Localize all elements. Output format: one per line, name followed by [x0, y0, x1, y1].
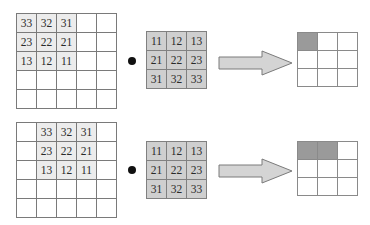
input-cell	[57, 180, 77, 199]
input-cell: 21	[77, 142, 97, 161]
input-cell: 33	[17, 14, 37, 33]
input-cell	[77, 52, 97, 71]
input-cell: 12	[57, 161, 77, 180]
input-cell	[77, 180, 97, 199]
output-cell	[338, 142, 358, 160]
input-cell	[37, 90, 57, 109]
output-cell	[338, 51, 358, 69]
input-cell: 22	[57, 142, 77, 161]
kernel-cell: 31	[147, 70, 167, 89]
output-cell-filled	[298, 33, 318, 51]
input-matrix-1: 33 32 31 23 22 21 13 12 11	[16, 13, 117, 109]
kernel-matrix-1: 11 12 13 21 22 23 31 32 33	[146, 31, 207, 89]
right-arrow-icon	[218, 158, 294, 184]
kernel-cell: 13	[187, 142, 207, 161]
input-cell	[77, 71, 97, 90]
kernel-cell: 13	[187, 32, 207, 51]
input-cell	[77, 33, 97, 52]
input-cell: 33	[37, 123, 57, 142]
kernel-cell: 31	[147, 180, 167, 199]
input-cell: 23	[17, 33, 37, 52]
input-cell	[57, 71, 77, 90]
output-cell	[318, 51, 338, 69]
input-cell	[77, 14, 97, 33]
input-cell: 31	[57, 14, 77, 33]
output-cell-filled	[298, 142, 318, 160]
input-cell: 11	[57, 52, 77, 71]
output-cell	[298, 160, 318, 178]
input-cell	[17, 71, 37, 90]
input-cell: 23	[37, 142, 57, 161]
input-cell: 32	[37, 14, 57, 33]
output-cell-filled	[318, 142, 338, 160]
kernel-cell: 32	[167, 70, 187, 89]
input-cell: 12	[37, 52, 57, 71]
output-matrix-2	[297, 141, 358, 196]
input-cell	[97, 33, 117, 52]
kernel-matrix-2: 11 12 13 21 22 23 31 32 33	[146, 141, 207, 199]
output-cell	[298, 51, 318, 69]
dot-operator-icon	[128, 57, 136, 65]
input-cell	[17, 180, 37, 199]
input-cell	[37, 199, 57, 218]
input-cell	[77, 90, 97, 109]
kernel-cell: 33	[187, 180, 207, 199]
output-cell	[318, 178, 338, 196]
input-cell	[77, 199, 97, 218]
input-cell	[97, 71, 117, 90]
input-cell	[97, 199, 117, 218]
output-cell	[318, 160, 338, 178]
input-cell	[17, 142, 37, 161]
output-cell	[298, 178, 318, 196]
input-cell	[17, 90, 37, 109]
kernel-cell: 11	[147, 32, 167, 51]
kernel-cell: 22	[167, 161, 187, 180]
input-cell	[97, 180, 117, 199]
input-cell	[37, 180, 57, 199]
output-cell	[338, 69, 358, 87]
kernel-cell: 21	[147, 161, 167, 180]
output-cell	[318, 69, 338, 87]
input-matrix-2: 33 32 31 23 22 21 13 12 11	[16, 122, 117, 218]
output-cell	[338, 178, 358, 196]
output-matrix-1	[297, 32, 358, 87]
kernel-cell: 22	[167, 51, 187, 70]
input-cell	[17, 199, 37, 218]
input-cell: 11	[77, 161, 97, 180]
input-cell	[97, 14, 117, 33]
input-cell	[57, 199, 77, 218]
input-cell	[57, 90, 77, 109]
input-cell	[37, 71, 57, 90]
input-cell	[97, 161, 117, 180]
input-cell	[17, 123, 37, 142]
input-cell	[97, 52, 117, 71]
dot-operator-icon	[128, 166, 136, 174]
kernel-cell: 23	[187, 51, 207, 70]
input-cell	[97, 90, 117, 109]
input-cell: 22	[37, 33, 57, 52]
kernel-cell: 33	[187, 70, 207, 89]
kernel-cell: 11	[147, 142, 167, 161]
input-cell	[97, 142, 117, 161]
output-cell	[338, 33, 358, 51]
input-cell: 13	[37, 161, 57, 180]
input-cell	[17, 161, 37, 180]
output-cell	[298, 69, 318, 87]
input-cell: 21	[57, 33, 77, 52]
kernel-cell: 32	[167, 180, 187, 199]
input-cell	[97, 123, 117, 142]
input-cell: 32	[57, 123, 77, 142]
kernel-cell: 21	[147, 51, 167, 70]
input-cell: 31	[77, 123, 97, 142]
output-cell	[318, 33, 338, 51]
kernel-cell: 12	[167, 142, 187, 161]
kernel-cell: 12	[167, 32, 187, 51]
input-cell: 13	[17, 52, 37, 71]
output-cell	[338, 160, 358, 178]
right-arrow-icon	[218, 50, 294, 76]
kernel-cell: 23	[187, 161, 207, 180]
